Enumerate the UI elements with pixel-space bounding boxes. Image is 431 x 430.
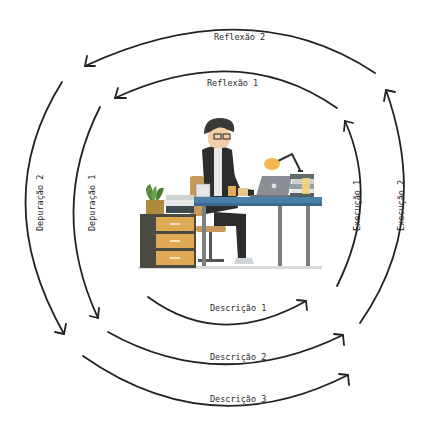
label-descricao-1: Descrição 1 — [210, 303, 266, 313]
label-descricao-2: Descrição 2 — [210, 352, 266, 362]
drawer-cabinet — [140, 214, 196, 268]
label-execucao-1: Execução 1 — [352, 180, 362, 231]
label-depuracao-2: Depuração 2 — [35, 175, 45, 231]
arrow-depuracao-2 — [25, 82, 66, 334]
label-execucao-2: Execução 2 — [396, 180, 406, 231]
arrow-reflexao-1 — [115, 71, 337, 108]
desk-illustration — [138, 118, 322, 269]
label-reflexao-2: Reflexão 2 — [214, 32, 265, 42]
label-reflexao-1: Reflexão 1 — [207, 78, 258, 88]
cycle-diagram: Reflexão 2 Reflexão 1 Depuração 2 Depura… — [0, 0, 431, 430]
laptop-icon — [250, 176, 292, 197]
lamp-icon — [264, 154, 303, 172]
chair-seat — [196, 226, 226, 232]
desk-top — [186, 197, 322, 203]
label-descricao-3: Descrição 3 — [210, 394, 266, 404]
plant-icon — [146, 184, 164, 214]
label-depuracao-1: Depuração 1 — [87, 175, 97, 231]
